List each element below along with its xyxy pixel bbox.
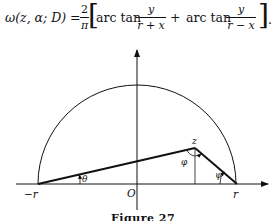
label-psi: ψ [215,170,222,180]
segment-minus-r-to-z [38,148,195,184]
figure-caption: Figure 27 [111,212,175,221]
label-r: r [233,188,238,200]
label-z: z [192,136,197,146]
label-theta: θ [82,174,87,184]
theta-arc [80,175,81,184]
label-phi: φ [181,157,187,167]
label-origin: O [127,187,136,199]
label-minus-r: −r [24,188,38,200]
